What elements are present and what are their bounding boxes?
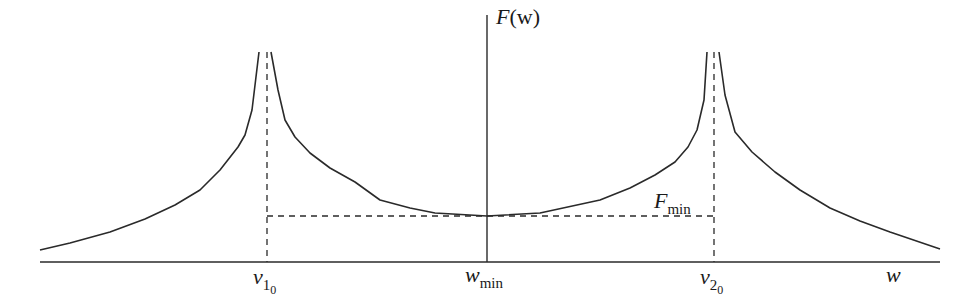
v1-subsub: 0 <box>270 283 276 297</box>
function-curve <box>40 52 940 250</box>
reference-dashed-lines <box>267 52 714 262</box>
fmin-sub: min <box>667 201 690 217</box>
curve-left-outer <box>40 52 259 250</box>
y-axis-label-paren: (w) <box>509 4 540 29</box>
v2-main: v <box>700 264 710 289</box>
y-axis-label-main: F <box>496 4 509 29</box>
axes <box>40 15 940 262</box>
wmin-tick-label: wmin <box>465 264 503 286</box>
diagram-canvas: F(w) w v10 v20 wmin Fmin <box>0 0 973 307</box>
wmin-main: w <box>465 262 480 287</box>
x-axis-label: w <box>886 264 901 286</box>
wmin-sub: min <box>480 275 503 291</box>
v2-subsub: 0 <box>717 283 723 297</box>
v2-tick-label: v20 <box>700 266 723 288</box>
y-axis-label: F(w) <box>496 6 540 28</box>
curve-center <box>271 52 707 216</box>
plot-svg <box>0 0 973 307</box>
v1-main: v <box>253 264 263 289</box>
fmin-main: F <box>654 188 667 213</box>
v1-tick-label: v10 <box>253 266 276 288</box>
fmin-label: Fmin <box>654 190 691 212</box>
curve-right-outer <box>719 52 940 249</box>
